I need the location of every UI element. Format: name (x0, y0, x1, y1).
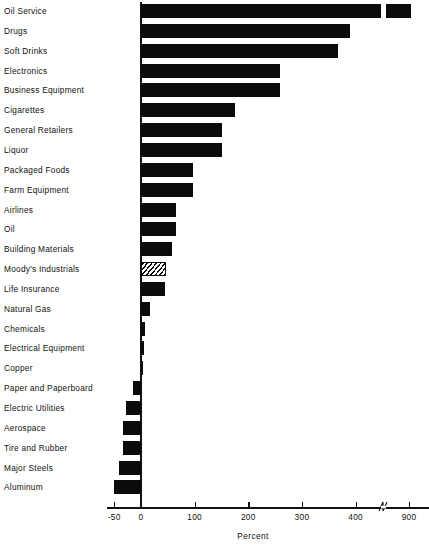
bar (141, 163, 193, 177)
bar (114, 480, 141, 494)
bar (141, 64, 280, 78)
bar (141, 282, 165, 296)
bar (141, 361, 143, 375)
x-axis-tick (409, 502, 410, 507)
x-axis-tick (302, 502, 303, 507)
x-axis-tick-label: 200 (241, 512, 256, 522)
bar (141, 143, 222, 157)
axis-break-icon (376, 500, 390, 514)
bar (126, 401, 141, 415)
bar (141, 341, 144, 355)
x-axis-tick (356, 502, 357, 507)
bar (119, 461, 141, 475)
x-axis-tick-label: 100 (187, 512, 202, 522)
bar-segment (386, 4, 411, 18)
bar (133, 381, 141, 395)
plot-area (0, 0, 429, 500)
bar (141, 103, 235, 117)
bar (141, 222, 176, 236)
bar-chart: Oil ServiceDrugsSoft DrinksElectronicsBu… (0, 0, 429, 554)
x-axis-tick-label: 0 (139, 512, 144, 522)
x-axis-tick-label: -50 (108, 512, 121, 522)
bar (141, 24, 350, 38)
bar (141, 44, 338, 58)
bar (141, 83, 280, 97)
x-axis-title: Percent (237, 531, 268, 541)
bar (141, 203, 176, 217)
bar (141, 302, 150, 316)
x-axis-tick-label: 300 (295, 512, 310, 522)
x-axis-tick (248, 502, 249, 507)
bar-moodys-industrials (141, 262, 166, 276)
bar (141, 242, 172, 256)
bar (141, 123, 222, 137)
bar (123, 441, 141, 455)
bar (141, 322, 145, 336)
x-axis-tick (195, 502, 196, 507)
x-axis-tick-label: 400 (348, 512, 363, 522)
x-axis-tick (141, 502, 142, 507)
x-axis-tick (114, 502, 115, 507)
bar-segment (141, 4, 381, 18)
bar (141, 183, 193, 197)
x-axis-tick-label: 900 (402, 512, 417, 522)
bar (123, 421, 141, 435)
